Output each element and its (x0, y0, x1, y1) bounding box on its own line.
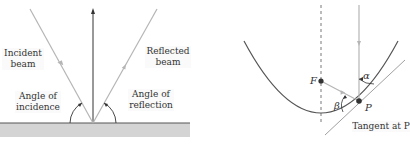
reflected-beam-label: Reflected beam (145, 46, 191, 68)
alpha-label: α (363, 70, 370, 81)
reflected-ray (321, 81, 359, 101)
beta-label: β (334, 100, 340, 111)
angle-reflection-label: Angle of reflection (128, 89, 174, 111)
diagram-canvas (0, 0, 410, 148)
normal-arrow-icon (91, 8, 95, 14)
focus-label: F (310, 75, 317, 86)
incident-beam-label: Incident beam (2, 48, 44, 70)
point-p (356, 98, 362, 104)
tangent-label: Tangent at P (352, 121, 410, 132)
focus-point (318, 78, 323, 83)
point-p-label: P (365, 102, 372, 113)
reflecting-surface (0, 123, 190, 137)
angle-incidence-label: Angle of incidence (15, 91, 61, 113)
